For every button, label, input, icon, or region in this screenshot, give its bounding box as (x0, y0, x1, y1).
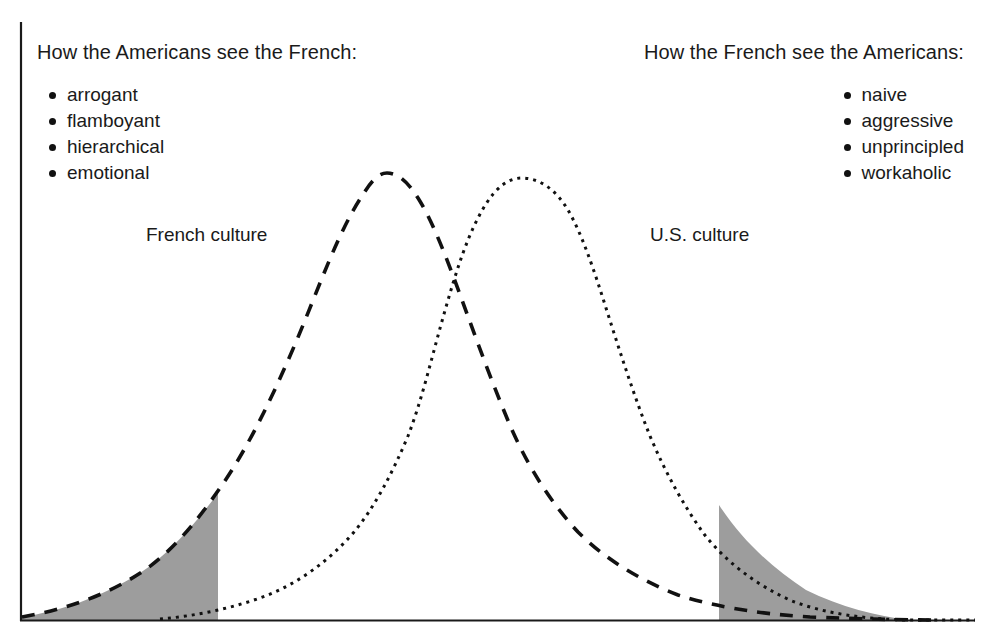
list-item: hierarchical (45, 134, 357, 160)
trait-list-right: naive aggressive unprincipled workaholic (840, 82, 964, 186)
cultural-perception-figure: How the Americans see the French: arroga… (0, 0, 987, 640)
shaded-region-french-left-tail (22, 493, 218, 620)
list-item: naive (840, 82, 964, 108)
list-item: workaholic (840, 160, 964, 186)
curve-label-us-culture: U.S. culture (650, 224, 749, 246)
shaded-region-us-right-tail (719, 505, 908, 620)
list-item: unprincipled (840, 134, 964, 160)
curve-us-culture (160, 178, 975, 620)
list-item: arrogant (45, 82, 357, 108)
panel-right-heading: How the French see the Americans: (644, 40, 964, 64)
panel-left-heading: How the Americans see the French: (37, 40, 357, 64)
trait-list-left: arrogant flamboyant hierarchical emotion… (45, 82, 357, 186)
list-item: emotional (45, 160, 357, 186)
list-item: flamboyant (45, 108, 357, 134)
panel-americans-see-french: How the Americans see the French: arroga… (37, 40, 357, 186)
panel-french-see-americans: How the French see the Americans: naive … (644, 40, 964, 186)
list-item: aggressive (840, 108, 964, 134)
curve-label-french-culture: French culture (146, 224, 267, 246)
